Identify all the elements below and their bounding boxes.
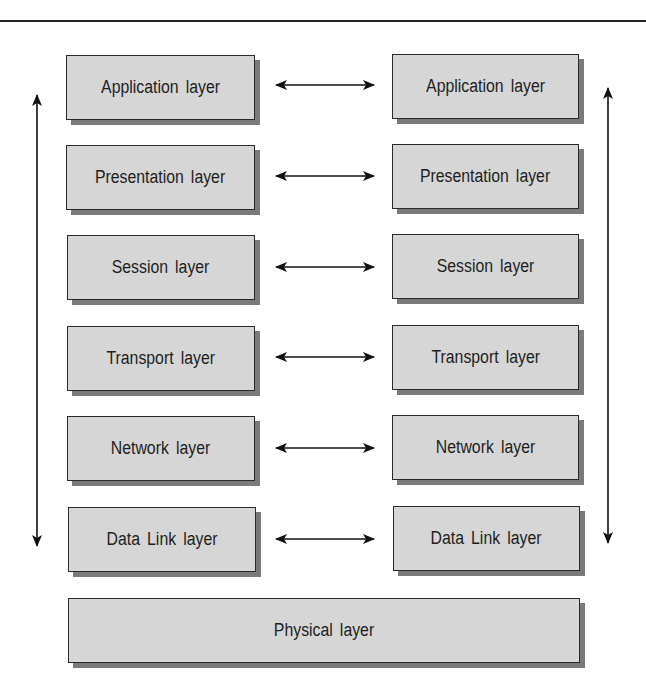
arrows-layer [0, 0, 646, 688]
